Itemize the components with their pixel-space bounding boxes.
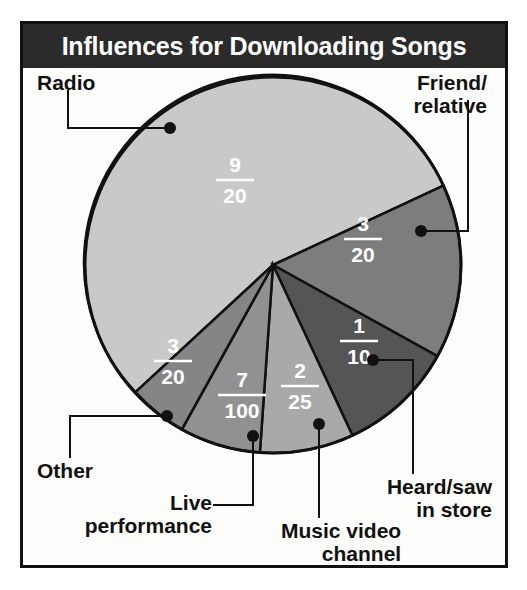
callout-label-live-performance: Live performance [66,492,212,537]
callout-label-heard-saw-in-store-line-1: Heard/saw [387,476,492,499]
slice-value-radio-numerator: 9 [229,153,241,176]
slice-value-friend-relative-denominator: 20 [351,243,374,266]
callout-label-live-performance-line-1: Live [66,492,212,515]
callout-label-heard-saw-in-store: Heard/saw in store [387,476,492,521]
leader-dot-music-video-channel [313,418,325,430]
callout-label-heard-saw-in-store-line-2: in store [387,499,492,522]
callout-label-friend-relative-line-2: relative [413,95,487,118]
leader-dot-friend-relative [415,225,427,237]
callout-label-friend-relative: Friend/ relative [413,72,487,117]
callout-label-music-video-channel: Music video channel [281,520,401,565]
callout-label-music-video-channel-line-2: channel [281,543,401,566]
callout-label-live-performance-line-2: performance [66,515,212,538]
leader-dot-other [161,410,173,422]
callout-label-other-line-1: Other [37,460,93,483]
pie-chart-plot-area: 9 20 3 20 1 10 2 25 7 100 [23,68,505,568]
chart-title-bar: Influences for Downloading Songs [23,24,505,68]
callout-label-radio-line-1: Radio [37,72,95,95]
callout-label-friend-relative-line-1: Friend/ [413,72,487,95]
slice-value-music-video-channel-numerator: 2 [294,359,306,382]
slice-value-heard-saw-in-store-numerator: 1 [353,314,365,337]
callout-label-radio: Radio [37,72,95,95]
leader-dot-heard-saw-in-store [367,354,379,366]
slice-value-radio-denominator: 20 [223,184,246,207]
slice-value-music-video-channel-denominator: 25 [288,390,312,413]
callout-label-music-video-channel-line-1: Music video [281,520,401,543]
callout-label-other: Other [37,460,93,483]
leader-dot-radio [164,122,176,134]
leader-line-other [70,416,165,458]
slice-value-live-performance-denominator: 100 [224,399,259,422]
chart-figure: Influences for Downloading Songs [20,21,508,568]
slice-value-friend-relative-numerator: 3 [357,212,369,235]
page-title: Influences for Downloading Songs [62,32,467,61]
leader-dot-live-performance [247,430,259,442]
slice-value-other-denominator: 20 [161,365,184,388]
slice-value-live-performance-numerator: 7 [236,368,248,391]
slice-value-other-numerator: 3 [167,334,179,357]
slice-value-heard-saw-in-store-denominator: 10 [347,345,370,368]
